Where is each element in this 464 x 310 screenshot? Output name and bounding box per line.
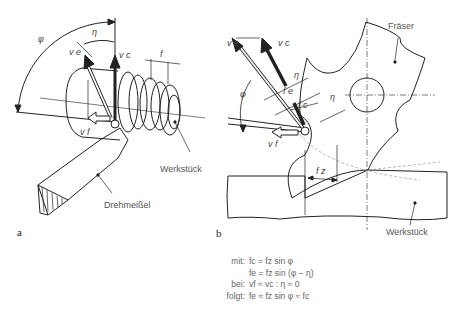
vc-label-a: v c <box>119 50 131 60</box>
ve-label-b: v e <box>227 38 239 48</box>
formula-value: fc = fz sin φ <box>249 256 293 268</box>
vf-label-b: v f <box>268 139 279 149</box>
eta-label-b: η <box>294 70 299 80</box>
formula-value: fe ≈ fz sin φ ≈ fc <box>249 291 309 303</box>
fc-label-b: f c <box>298 100 308 110</box>
fz-label-b: f z <box>316 166 326 176</box>
formula-key: mit: <box>207 256 249 268</box>
eta-label-a: η <box>92 27 97 37</box>
formula-row: mit: fc = fz sin φ <box>207 256 314 268</box>
formula-value: fe = fz sin (φ − η) <box>249 268 314 280</box>
formula-block: mit: fc = fz sin φ fe = fz sin (φ − η) b… <box>207 256 314 302</box>
formula-row: folgt: fe ≈ fz sin φ ≈ fc <box>207 291 314 303</box>
phi-label-b: φ <box>240 89 246 99</box>
formula-key: bei: <box>207 279 249 291</box>
panel-a <box>15 18 205 215</box>
vc-label-b: v c <box>278 38 290 48</box>
workpiece-callout-b: Werkstück <box>386 227 428 237</box>
formula-value: vf ≈ vc : η ≈ 0 <box>249 279 299 291</box>
fe-label-b: f e <box>283 86 293 96</box>
formula-row: bei: vf ≈ vc : η ≈ 0 <box>207 279 314 291</box>
f-label-a: f <box>160 49 164 59</box>
panel-b <box>227 18 447 230</box>
panel-a-label: a <box>17 226 22 238</box>
vf-label-a: v f <box>80 127 91 137</box>
tool-callout: Drehmeißel <box>104 200 151 210</box>
ve-label-a: v e <box>69 47 81 57</box>
eta2-label-b: η <box>330 92 335 102</box>
cutter-callout: Fräser <box>388 21 414 31</box>
panel-b-label: b <box>216 227 222 239</box>
formula-key: folgt: <box>207 291 249 303</box>
phi-label-a: φ <box>38 34 44 44</box>
formula-key <box>207 268 249 280</box>
formula-row: fe = fz sin (φ − η) <box>207 268 314 280</box>
workpiece-callout-a: Werkstück <box>160 164 202 174</box>
